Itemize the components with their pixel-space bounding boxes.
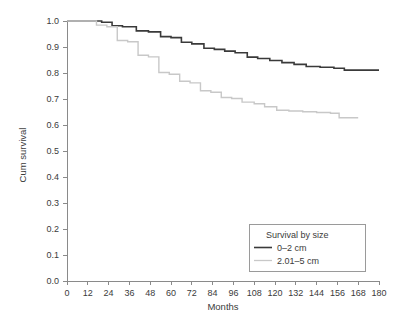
series-line-small xyxy=(67,21,379,70)
x-tick-label: 0 xyxy=(64,288,69,298)
y-tick-label: 0.6 xyxy=(46,120,59,130)
legend-label-0: 0–2 cm xyxy=(277,243,307,253)
x-tick-label: 156 xyxy=(330,288,345,298)
x-axis-group: 01224364860728496108120132144156168180 xyxy=(64,281,386,298)
x-tick-label: 132 xyxy=(288,288,303,298)
y-tick-label: 0.3 xyxy=(46,198,59,208)
legend-title: Survival by size xyxy=(266,230,329,240)
x-tick-label: 12 xyxy=(83,288,93,298)
y-tick-label: 0.2 xyxy=(46,224,59,234)
y-tick-label: 0.4 xyxy=(46,172,59,182)
y-axis-ticks xyxy=(63,21,67,281)
y-axis-tick-labels: 0.00.10.20.30.40.50.60.70.80.91.0 xyxy=(46,16,59,286)
y-tick-label: 1.0 xyxy=(46,16,59,26)
x-tick-label: 120 xyxy=(267,288,282,298)
y-axis-group: 0.00.10.20.30.40.50.60.70.80.91.0 xyxy=(46,16,67,286)
y-tick-label: 0.0 xyxy=(46,276,59,286)
series-line-large xyxy=(67,21,358,118)
legend: Survival by size 0–2 cm2.01–5 cm xyxy=(250,225,366,272)
x-tick-label: 72 xyxy=(187,288,197,298)
y-tick-label: 0.8 xyxy=(46,68,59,78)
x-tick-label: 84 xyxy=(208,288,218,298)
x-tick-label: 24 xyxy=(104,288,114,298)
x-axis-ticks xyxy=(67,281,379,285)
x-tick-label: 96 xyxy=(228,288,238,298)
x-tick-label: 48 xyxy=(145,288,155,298)
y-tick-label: 0.7 xyxy=(46,94,59,104)
legend-entries: 0–2 cm2.01–5 cm xyxy=(254,243,319,266)
x-axis-tick-labels: 01224364860728496108120132144156168180 xyxy=(64,288,386,298)
y-axis-title: Cum survival xyxy=(17,128,28,183)
survival-chart-figure: 0.00.10.20.30.40.50.60.70.80.91.0 012243… xyxy=(0,0,393,325)
x-tick-label: 60 xyxy=(166,288,176,298)
data-series-group xyxy=(67,21,379,118)
x-tick-label: 36 xyxy=(124,288,134,298)
y-tick-label: 0.5 xyxy=(46,146,59,156)
x-tick-label: 108 xyxy=(247,288,262,298)
chart-canvas: 0.00.10.20.30.40.50.60.70.80.91.0 012243… xyxy=(0,0,393,325)
y-tick-label: 0.1 xyxy=(46,250,59,260)
legend-label-1: 2.01–5 cm xyxy=(277,256,319,266)
x-tick-label: 144 xyxy=(309,288,324,298)
x-tick-label: 168 xyxy=(351,288,366,298)
x-axis-title: Months xyxy=(207,301,238,312)
y-tick-label: 0.9 xyxy=(46,42,59,52)
x-tick-label: 180 xyxy=(371,288,386,298)
